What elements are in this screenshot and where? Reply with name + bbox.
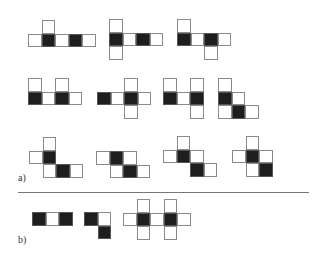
empty-cell xyxy=(42,92,56,106)
filled-cell xyxy=(69,34,83,48)
empty-cell xyxy=(246,163,260,177)
empty-cell xyxy=(137,226,151,240)
filled-cell xyxy=(98,226,112,240)
empty-cell xyxy=(163,150,177,164)
empty-cell xyxy=(110,165,124,179)
filled-cell xyxy=(110,151,124,165)
filled-cell xyxy=(259,163,273,177)
divider-line xyxy=(18,192,309,193)
empty-cell xyxy=(28,78,42,92)
empty-cell xyxy=(150,213,164,227)
filled-cell xyxy=(32,212,46,226)
empty-cell xyxy=(138,92,152,106)
empty-cell xyxy=(232,92,246,106)
empty-cell xyxy=(190,78,204,92)
filled-cell xyxy=(59,212,73,226)
empty-cell xyxy=(137,165,151,179)
empty-cell xyxy=(164,226,178,240)
empty-cell xyxy=(42,20,56,34)
empty-cell xyxy=(82,34,96,48)
empty-cell xyxy=(70,164,84,178)
empty-cell xyxy=(204,46,218,60)
filled-cell xyxy=(136,33,150,47)
empty-cell xyxy=(259,150,273,164)
empty-cell xyxy=(43,164,57,178)
empty-cell xyxy=(123,213,137,227)
filled-cell xyxy=(204,33,218,47)
filled-cell xyxy=(177,33,191,47)
filled-cell xyxy=(218,92,232,106)
empty-cell xyxy=(123,151,137,165)
label-a: a) xyxy=(18,172,26,183)
empty-cell xyxy=(137,199,151,213)
empty-cell xyxy=(43,137,57,151)
empty-cell xyxy=(177,136,191,150)
filled-cell xyxy=(55,92,69,106)
empty-cell xyxy=(218,105,232,119)
empty-cell xyxy=(55,78,69,92)
empty-cell xyxy=(245,105,259,119)
filled-cell xyxy=(124,92,138,106)
empty-cell xyxy=(246,136,260,150)
filled-cell xyxy=(97,92,111,106)
filled-cell xyxy=(43,151,57,165)
empty-cell xyxy=(232,150,246,164)
filled-cell xyxy=(28,92,42,106)
empty-cell xyxy=(69,92,83,106)
empty-cell xyxy=(111,92,125,106)
filled-cell xyxy=(190,92,204,106)
empty-cell xyxy=(98,212,112,226)
empty-cell xyxy=(191,33,205,47)
empty-cell xyxy=(124,78,138,92)
empty-cell xyxy=(109,19,123,33)
empty-cell xyxy=(204,163,218,177)
empty-cell xyxy=(164,199,178,213)
empty-cell xyxy=(124,105,138,119)
empty-cell xyxy=(150,33,164,47)
filled-cell xyxy=(163,92,177,106)
empty-cell xyxy=(218,78,232,92)
empty-cell xyxy=(46,212,60,226)
empty-cell xyxy=(177,92,191,106)
filled-cell xyxy=(137,213,151,227)
filled-cell xyxy=(42,34,56,48)
empty-cell xyxy=(218,33,232,47)
empty-cell xyxy=(190,105,204,119)
empty-cell xyxy=(190,150,204,164)
empty-cell xyxy=(55,34,69,48)
filled-cell xyxy=(232,105,246,119)
empty-cell xyxy=(163,78,177,92)
diagram-canvas: a) b) xyxy=(0,0,323,256)
filled-cell xyxy=(246,150,260,164)
filled-cell xyxy=(164,213,178,227)
empty-cell xyxy=(109,46,123,60)
filled-cell xyxy=(56,164,70,178)
empty-cell xyxy=(28,34,42,48)
empty-cell xyxy=(123,33,137,47)
filled-cell xyxy=(109,33,123,47)
empty-cell xyxy=(177,19,191,33)
empty-cell xyxy=(29,151,43,165)
empty-cell xyxy=(96,151,110,165)
filled-cell xyxy=(123,165,137,179)
label-b: b) xyxy=(18,234,26,245)
filled-cell xyxy=(190,163,204,177)
filled-cell xyxy=(84,212,98,226)
empty-cell xyxy=(177,213,191,227)
filled-cell xyxy=(177,150,191,164)
